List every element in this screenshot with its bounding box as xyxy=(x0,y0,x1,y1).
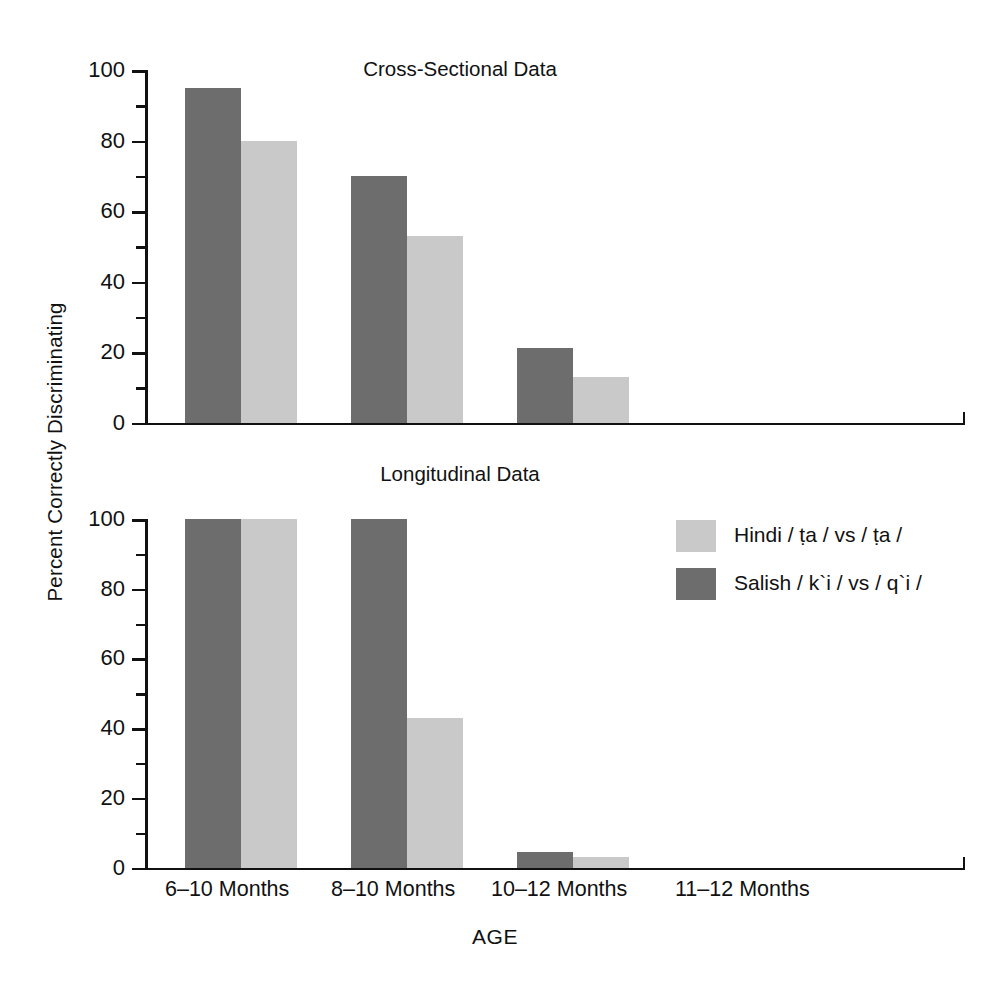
y-tick-label-60: 60 xyxy=(101,647,125,669)
bar-group xyxy=(517,68,629,423)
bar xyxy=(351,519,407,868)
y-tick-major-40: 40 xyxy=(132,282,145,285)
y-tick-label-0: 0 xyxy=(113,856,125,878)
x-axis-label-3: 11–12 Months xyxy=(675,877,810,902)
y-tick-minor-30 xyxy=(136,317,145,320)
bar-group xyxy=(185,68,297,423)
bar xyxy=(185,88,241,423)
bar-group xyxy=(185,517,297,868)
y-tick-major-0: 0 xyxy=(132,868,145,871)
bar-group xyxy=(683,68,795,423)
plot-area-cross-sectional: 020406080100 xyxy=(145,70,965,425)
bar xyxy=(407,718,463,868)
y-tick-label-100: 100 xyxy=(88,508,125,530)
legend-item: Hindi / ṭa / vs / ṭa / xyxy=(676,518,1006,566)
y-tick-label-0: 0 xyxy=(113,411,125,433)
bar-group xyxy=(351,68,463,423)
y-tick-label-100: 100 xyxy=(88,59,125,81)
figure-root: Percent Correctly Discriminating Cross-S… xyxy=(0,0,1008,1007)
y-tick-minor-50 xyxy=(136,693,145,696)
x-axis-line-top xyxy=(145,423,965,426)
y-tick-major-60: 60 xyxy=(132,211,145,214)
y-tick-label-20: 20 xyxy=(101,786,125,808)
y-tick-major-80: 80 xyxy=(132,141,145,144)
chart-legend: Hindi / ṭa / vs / ṭa /Salish / k`i / vs … xyxy=(676,518,1006,614)
y-tick-major-0: 0 xyxy=(132,423,145,426)
legend-swatch-icon xyxy=(676,568,716,600)
x-axis-title: AGE xyxy=(145,925,845,949)
y-tick-minor-90 xyxy=(136,105,145,108)
y-tick-major-20: 20 xyxy=(132,352,145,355)
x-axis-line-bottom xyxy=(145,868,965,871)
y-tick-major-20: 20 xyxy=(132,798,145,801)
x-axis-label-1: 8–10 Months xyxy=(331,877,455,902)
y-tick-label-40: 40 xyxy=(101,717,125,739)
y-tick-label-60: 60 xyxy=(101,200,125,222)
y-tick-minor-70 xyxy=(136,624,145,627)
y-tick-minor-90 xyxy=(136,554,145,557)
legend-item: Salish / k`i / vs / q`i / xyxy=(676,566,1006,614)
y-tick-major-60: 60 xyxy=(132,658,145,661)
bar xyxy=(573,857,629,867)
y-tick-minor-10 xyxy=(136,833,145,836)
chart-title-longitudinal: Longitudinal Data xyxy=(60,462,860,486)
bar-group xyxy=(351,517,463,868)
chart-panel-cross-sectional: Cross-Sectional Data 020406080100 xyxy=(0,55,1008,440)
y-tick-minor-50 xyxy=(136,246,145,249)
y-tick-label-80: 80 xyxy=(101,577,125,599)
bar xyxy=(517,348,573,422)
legend-label: Hindi / ṭa / vs / ṭa / xyxy=(734,520,902,550)
bar xyxy=(517,852,573,868)
bar xyxy=(241,519,297,868)
x-axis-category-labels: 6–10 Months8–10 Months10–12 Months11–12 … xyxy=(145,877,975,909)
y-tick-label-40: 40 xyxy=(101,270,125,292)
y-tick-label-80: 80 xyxy=(101,129,125,151)
x-axis-label-0: 6–10 Months xyxy=(165,877,289,902)
y-tick-major-80: 80 xyxy=(132,589,145,592)
bar-group xyxy=(517,517,629,868)
y-tick-major-100: 100 xyxy=(132,519,145,522)
y-tick-label-20: 20 xyxy=(101,341,125,363)
y-axis-line-bottom xyxy=(145,519,148,870)
y-axis-line-top xyxy=(145,70,148,425)
bar xyxy=(407,236,463,423)
y-tick-minor-30 xyxy=(136,763,145,766)
x-axis-right-cap-bottom xyxy=(963,857,966,870)
y-tick-major-40: 40 xyxy=(132,728,145,731)
x-axis-label-2: 10–12 Months xyxy=(491,877,627,902)
y-tick-minor-10 xyxy=(136,387,145,390)
x-axis-right-cap-top xyxy=(963,412,966,425)
legend-swatch-icon xyxy=(676,520,716,552)
y-tick-major-100: 100 xyxy=(132,70,145,73)
y-tick-minor-70 xyxy=(136,176,145,179)
bar xyxy=(185,519,241,868)
bar xyxy=(241,141,297,423)
bar xyxy=(351,176,407,423)
bar xyxy=(573,377,629,423)
legend-label: Salish / k`i / vs / q`i / xyxy=(734,568,922,598)
